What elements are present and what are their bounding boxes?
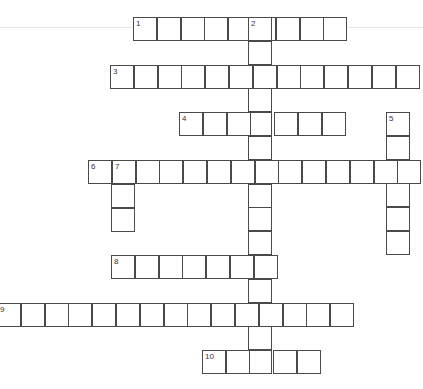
cell-input[interactable]	[254, 66, 276, 88]
cell-input[interactable]	[205, 18, 227, 40]
cell-input[interactable]	[93, 304, 115, 326]
crossword-cell[interactable]	[92, 303, 116, 327]
crossword-cell[interactable]: 2	[248, 17, 272, 41]
crossword-cell[interactable]	[21, 303, 45, 327]
cell-input[interactable]	[397, 66, 419, 88]
cell-input[interactable]	[112, 185, 134, 207]
crossword-cell[interactable]	[386, 183, 410, 207]
cell-input[interactable]	[323, 113, 345, 135]
crossword-cell[interactable]	[248, 207, 272, 231]
crossword-cell[interactable]	[248, 136, 272, 160]
crossword-cell[interactable]	[159, 255, 183, 279]
crossword-cell[interactable]	[229, 65, 253, 89]
crossword-cell[interactable]	[140, 303, 164, 327]
cell-input[interactable]	[301, 18, 323, 40]
cell-input[interactable]	[182, 66, 204, 88]
cell-input[interactable]	[136, 256, 158, 278]
crossword-cell[interactable]	[227, 112, 251, 136]
crossword-cell[interactable]	[226, 350, 250, 374]
crossword-cell[interactable]: 7	[112, 160, 136, 184]
cell-input[interactable]	[301, 66, 323, 88]
cell-input[interactable]	[299, 113, 321, 135]
cell-input[interactable]	[46, 304, 68, 326]
cell-input[interactable]	[135, 66, 157, 88]
crossword-cell[interactable]	[45, 303, 69, 327]
crossword-cell[interactable]	[248, 279, 272, 303]
crossword-cell[interactable]	[350, 160, 374, 184]
crossword-cell[interactable]	[134, 65, 158, 89]
cell-input[interactable]	[325, 66, 347, 88]
crossword-cell[interactable]	[136, 160, 160, 184]
crossword-cell[interactable]	[135, 255, 159, 279]
crossword-cell[interactable]	[248, 112, 272, 136]
crossword-cell[interactable]	[211, 303, 235, 327]
crossword-cell[interactable]	[297, 350, 321, 374]
crossword-cell[interactable]	[298, 112, 322, 136]
cell-input[interactable]	[303, 161, 325, 183]
cell-input[interactable]	[373, 66, 395, 88]
crossword-cell[interactable]	[348, 65, 372, 89]
crossword-cell[interactable]	[248, 350, 272, 374]
cell-input[interactable]	[117, 304, 139, 326]
crossword-cell[interactable]	[248, 41, 272, 65]
cell-input[interactable]	[22, 304, 44, 326]
cell-input[interactable]	[230, 66, 252, 88]
crossword-cell[interactable]: 6	[88, 160, 112, 184]
cell-input[interactable]	[277, 18, 299, 40]
crossword-cell[interactable]	[158, 65, 182, 89]
cell-input[interactable]	[279, 161, 301, 183]
cell-input[interactable]	[298, 351, 320, 373]
crossword-cell[interactable]	[203, 112, 227, 136]
cell-input[interactable]	[327, 161, 349, 183]
crossword-cell[interactable]	[204, 17, 228, 41]
crossword-cell[interactable]	[159, 160, 183, 184]
cell-input[interactable]	[207, 256, 229, 278]
crossword-cell[interactable]	[273, 350, 297, 374]
cell-input[interactable]	[375, 161, 397, 183]
crossword-cell[interactable]	[323, 17, 347, 41]
cell-input[interactable]	[331, 304, 353, 326]
cell-input[interactable]	[249, 327, 271, 349]
cell-input[interactable]	[204, 113, 226, 135]
cell-input[interactable]	[249, 42, 271, 64]
cell-input[interactable]	[249, 137, 271, 159]
cell-input[interactable]	[274, 351, 296, 373]
cell-input[interactable]	[249, 232, 271, 254]
crossword-cell[interactable]	[386, 136, 410, 160]
crossword-cell[interactable]: 3	[110, 65, 134, 89]
crossword-cell[interactable]	[276, 17, 300, 41]
cell-input[interactable]	[387, 137, 409, 159]
crossword-cell[interactable]	[253, 65, 277, 89]
crossword-cell[interactable]: 9	[0, 303, 21, 327]
crossword-cell[interactable]	[283, 303, 307, 327]
cell-input[interactable]	[208, 161, 230, 183]
crossword-cell[interactable]	[300, 17, 324, 41]
cell-input[interactable]	[260, 304, 282, 326]
cell-input[interactable]	[387, 208, 409, 230]
crossword-cell[interactable]	[254, 255, 278, 279]
crossword-cell[interactable]: 1	[133, 17, 157, 41]
cell-input[interactable]	[184, 161, 206, 183]
cell-input[interactable]	[275, 113, 297, 135]
crossword-cell[interactable]: 8	[111, 255, 135, 279]
crossword-cell[interactable]	[330, 303, 354, 327]
crossword-cell[interactable]	[324, 65, 348, 89]
cell-input[interactable]	[255, 256, 277, 278]
cell-input[interactable]	[188, 304, 210, 326]
crossword-cell[interactable]	[274, 112, 298, 136]
cell-input[interactable]	[249, 113, 271, 135]
cell-input[interactable]	[249, 89, 271, 111]
crossword-cell[interactable]	[259, 303, 283, 327]
cell-input[interactable]	[387, 232, 409, 254]
crossword-cell[interactable]	[230, 255, 254, 279]
crossword-cell[interactable]: 10	[202, 350, 226, 374]
crossword-cell[interactable]	[235, 303, 259, 327]
crossword-cell[interactable]	[164, 303, 188, 327]
crossword-cell[interactable]	[278, 160, 302, 184]
cell-input[interactable]	[231, 256, 253, 278]
crossword-cell[interactable]	[157, 17, 181, 41]
cell-input[interactable]	[228, 113, 250, 135]
cell-input[interactable]	[182, 18, 204, 40]
cell-input[interactable]	[249, 351, 271, 373]
crossword-cell[interactable]	[396, 65, 420, 89]
